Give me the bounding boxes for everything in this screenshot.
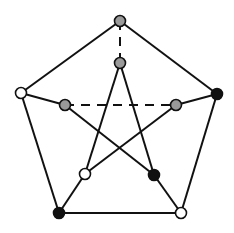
edges-layer — [21, 21, 217, 213]
edge-outer-bottom-left-to-inner-bottom-left — [59, 174, 85, 213]
node-inner-bottom-right — [149, 170, 160, 181]
node-inner-bottom-left — [80, 169, 91, 180]
node-inner-right — [171, 100, 182, 111]
edge-outer-left-to-inner-left — [21, 93, 65, 105]
edge-inner-top-to-inner-bottom-left — [85, 63, 120, 174]
edge-outer-bottom-left-to-outer-left — [21, 93, 59, 213]
edge-inner-top-to-inner-bottom-right — [120, 63, 154, 175]
node-inner-left — [60, 100, 71, 111]
edge-outer-top-to-outer-right — [120, 21, 217, 94]
node-outer-bottom-left — [54, 208, 65, 219]
node-outer-right — [212, 89, 223, 100]
petersen-graph-diagram — [0, 0, 234, 233]
edge-outer-right-to-outer-bottom-right — [181, 94, 217, 213]
node-outer-left — [16, 88, 27, 99]
edge-outer-bottom-right-to-inner-bottom-right — [154, 175, 181, 213]
edge-outer-left-to-outer-top — [21, 21, 120, 93]
node-inner-top — [115, 58, 126, 69]
edge-inner-right-to-inner-bottom-left — [85, 105, 176, 174]
edge-outer-right-to-inner-right — [176, 94, 217, 105]
node-outer-top — [115, 16, 126, 27]
node-outer-bottom-right — [176, 208, 187, 219]
edge-inner-left-to-inner-bottom-right — [65, 105, 154, 175]
graph-canvas — [0, 0, 234, 233]
